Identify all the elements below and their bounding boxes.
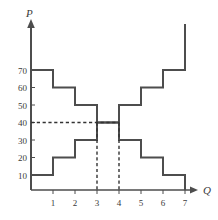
- x-tick-label-3: 3: [95, 198, 100, 208]
- x-tick-label-1: 1: [51, 198, 56, 208]
- x-tick-label-2: 2: [73, 198, 78, 208]
- x-axis-arrowhead: [190, 187, 198, 194]
- y-axis-label: P: [25, 7, 33, 19]
- y-tick-label-20: 20: [18, 153, 28, 163]
- y-tick-label-30: 30: [18, 136, 28, 146]
- cropped-caption-fragment: [4, 0, 124, 7]
- x-tick-label-4: 4: [117, 198, 122, 208]
- figure-supply-demand-step-chart: P Q 10 20 30 40 50 60 70 1 2 3: [0, 0, 218, 220]
- chart-canvas: P Q 10 20 30 40 50 60 70 1 2 3: [0, 0, 218, 220]
- y-tick-label-60: 60: [18, 83, 28, 93]
- x-axis-label: Q: [203, 184, 211, 196]
- x-tick-label-5: 5: [139, 198, 144, 208]
- y-tick-label-50: 50: [18, 101, 28, 111]
- y-tick-label-70: 70: [18, 66, 28, 76]
- y-axis-arrowhead: [27, 19, 35, 28]
- y-tick-label-40: 40: [18, 118, 28, 128]
- y-tick-label-10: 10: [18, 171, 28, 181]
- x-tick-label-7: 7: [183, 198, 188, 208]
- x-tick-group: 1 2 3 4 5 6 7: [51, 190, 188, 208]
- supply-step-curve: [31, 24, 185, 175]
- x-tick-label-6: 6: [161, 198, 166, 208]
